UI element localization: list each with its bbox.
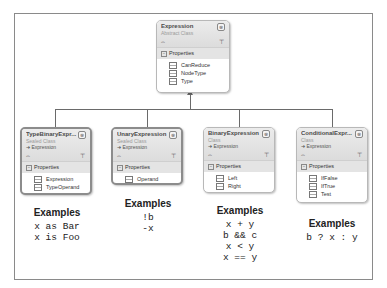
example-code: b && c [204, 230, 276, 241]
properties-section[interactable]: −Properties [113, 161, 181, 173]
property-name: NodeType [181, 70, 206, 76]
inheritance-drop-4 [332, 109, 333, 127]
property-name: Left [228, 175, 237, 181]
property-item[interactable]: CanReduce [169, 61, 229, 69]
properties-section[interactable]: −Properties [22, 161, 90, 173]
property-item[interactable]: Left [216, 174, 274, 182]
filter-icon[interactable]: ⊤ [80, 152, 85, 159]
examples-unary: Examples !b -x [113, 198, 183, 234]
section-label: Properties [34, 164, 59, 170]
examples-typebinary: Examples x as Bar x is Foo [22, 207, 92, 243]
properties-section[interactable]: −Properties [297, 160, 367, 172]
property-icon [169, 62, 177, 69]
example-code: x is Foo [22, 232, 92, 243]
base-arrow-icon: ➜ [208, 143, 212, 149]
filter-icon[interactable]: ⊤ [219, 38, 224, 45]
property-item[interactable]: Operand [125, 175, 181, 183]
property-icon [169, 70, 177, 77]
class-box-unaryexpression[interactable]: UnaryExpression Sealed Class ➜ Expressio… [111, 127, 183, 185]
example-code: x == y [204, 252, 276, 263]
property-icon [169, 78, 177, 85]
inheritance-drop-2 [147, 109, 148, 127]
examples-title: Examples [204, 205, 276, 216]
property-name: IfTrue [321, 183, 335, 189]
property-name: Expression [46, 176, 73, 182]
example-code: !b [113, 212, 183, 223]
property-icon [216, 175, 224, 182]
property-item[interactable]: Expression [34, 175, 90, 183]
base-class: ➜ Expression [117, 144, 177, 150]
properties-section[interactable]: −Properties [204, 160, 274, 172]
class-name: TypeBinaryExpr... [26, 131, 78, 138]
class-name: UnaryExpression [117, 131, 169, 138]
section-toggle-icon[interactable]: − [208, 164, 214, 170]
expand-toggle-icon[interactable]: ⌓ [301, 151, 305, 158]
property-icon [309, 183, 317, 190]
class-header: TypeBinaryExpr... Sealed Class ➜ Express… [22, 129, 90, 161]
inheritance-bus [55, 109, 332, 110]
expand-toggle-icon[interactable]: ⌓ [208, 151, 212, 158]
property-icon [309, 191, 317, 198]
example-code: b ? x : y [296, 232, 368, 243]
base-class: ➜ Expression [208, 143, 270, 149]
class-header: UnaryExpression Sealed Class ➜ Expressio… [113, 129, 181, 161]
property-item[interactable]: IfTrue [309, 182, 367, 190]
collapse-icon[interactable]: ⊗ [78, 131, 86, 139]
expand-toggle-icon[interactable]: ⌓ [117, 152, 121, 159]
property-item[interactable]: Test [309, 190, 367, 198]
class-header: ConditionalExpr... Class ➜ Expression ⊗ … [297, 128, 367, 160]
class-box-conditionalexpression[interactable]: ConditionalExpr... Class ➜ Expression ⊗ … [296, 127, 368, 203]
property-name: TypeOperand [46, 184, 79, 190]
properties-section[interactable]: −Properties [157, 47, 229, 59]
filter-icon[interactable]: ⊤ [357, 151, 362, 158]
expand-toggle-icon[interactable]: ⌓ [26, 152, 30, 159]
class-kind: Abstract Class [161, 30, 225, 36]
property-item[interactable]: NodeType [169, 69, 229, 77]
property-icon [309, 175, 317, 182]
section-toggle-icon[interactable]: − [161, 51, 167, 57]
class-box-typebinaryexpression[interactable]: TypeBinaryExpr... Sealed Class ➜ Express… [20, 127, 92, 195]
section-toggle-icon[interactable]: − [117, 165, 123, 171]
property-name: Operand [137, 176, 158, 182]
inheritance-stem [190, 93, 191, 110]
class-box-expression[interactable]: Expression Abstract Class ⊗ ⌓ ⊤ −Propert… [156, 20, 230, 93]
class-name: BinaryExpression [208, 130, 260, 137]
base-arrow-icon: ➜ [117, 144, 121, 150]
example-code: x < y [204, 241, 276, 252]
examples-title: Examples [113, 198, 183, 209]
property-icon [34, 184, 42, 191]
expand-toggle-icon[interactable]: ⌓ [161, 38, 165, 45]
collapse-icon[interactable]: ⊗ [217, 23, 225, 31]
property-name: Test [321, 191, 331, 197]
property-icon [34, 176, 42, 183]
property-item[interactable]: TypeOperand [34, 183, 90, 191]
base-arrow-icon: ➜ [301, 143, 305, 149]
section-label: Properties [125, 164, 150, 170]
class-header: BinaryExpression Class ➜ Expression ⊗ ⌓ … [204, 128, 274, 160]
collapse-icon[interactable]: ⊗ [355, 130, 363, 138]
class-name: ConditionalExpr... [301, 130, 353, 137]
property-item[interactable]: Type [169, 77, 229, 85]
class-box-binaryexpression[interactable]: BinaryExpression Class ➜ Expression ⊗ ⌓ … [203, 127, 275, 193]
filter-icon[interactable]: ⊤ [264, 151, 269, 158]
base-class: ➜ Expression [26, 144, 86, 150]
inheritance-drop-1 [55, 109, 56, 127]
examples-conditional: Examples b ? x : y [296, 218, 368, 243]
section-toggle-icon[interactable]: − [26, 165, 32, 171]
collapse-icon[interactable]: ⊗ [169, 131, 177, 139]
property-icon [125, 176, 133, 183]
class-header: Expression Abstract Class ⊗ ⌓ ⊤ [157, 21, 229, 47]
property-item[interactable]: IfFalse [309, 174, 367, 182]
property-item[interactable]: Right [216, 182, 274, 190]
example-code: -x [113, 223, 183, 234]
filter-icon[interactable]: ⊤ [171, 152, 176, 159]
property-icon [216, 183, 224, 190]
examples-title: Examples [296, 218, 368, 229]
section-toggle-icon[interactable]: − [301, 164, 307, 170]
property-name: CanReduce [181, 62, 210, 68]
collapse-icon[interactable]: ⊗ [262, 130, 270, 138]
section-label: Properties [216, 163, 241, 169]
example-code: x as Bar [22, 221, 92, 232]
property-name: Right [228, 183, 241, 189]
examples-binary: Examples x + y b && c x < y x == y [204, 205, 276, 263]
